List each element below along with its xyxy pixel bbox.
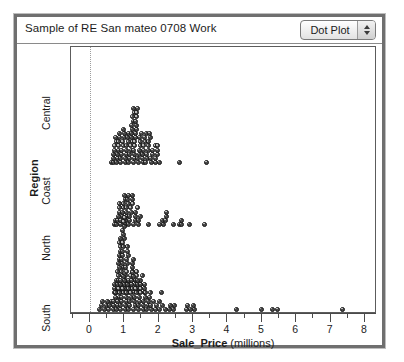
x-axis-tick-label: 6 xyxy=(292,323,298,335)
data-point[interactable] xyxy=(146,222,151,227)
x-axis-variable-name: Sale_Price xyxy=(172,337,228,349)
data-point[interactable] xyxy=(157,160,162,165)
data-point[interactable] xyxy=(131,257,136,262)
x-axis-tick-label: 5 xyxy=(258,323,264,335)
x-axis-tick-label: 8 xyxy=(361,323,367,335)
x-axis-minor-tick xyxy=(106,314,107,318)
data-point[interactable] xyxy=(340,307,345,312)
data-point[interactable] xyxy=(131,148,136,153)
x-axis-minor-tick xyxy=(175,314,176,318)
data-point[interactable] xyxy=(164,210,169,215)
x-axis-tick-label: 2 xyxy=(155,323,161,335)
plot-type-dropdown[interactable]: Dot Plot xyxy=(300,20,376,40)
data-point[interactable] xyxy=(177,160,182,165)
data-point[interactable] xyxy=(159,290,164,295)
y-category-label-north: North xyxy=(40,218,52,278)
data-point[interactable] xyxy=(133,210,138,215)
data-point[interactable] xyxy=(142,282,147,287)
plot-type-dropdown-label: Dot Plot xyxy=(301,24,357,36)
x-axis-minor-tick xyxy=(209,314,210,318)
graph-body: Region Central Coast North South 0123456… xyxy=(17,44,382,345)
data-point[interactable] xyxy=(122,224,127,229)
data-point[interactable] xyxy=(187,222,192,227)
triangle-down-icon[interactable] xyxy=(364,31,370,35)
x-axis-tick-label: 3 xyxy=(189,323,195,335)
x-axis-tick-label: 4 xyxy=(224,323,230,335)
data-point[interactable] xyxy=(130,270,135,275)
x-axis-major-tick xyxy=(158,314,159,322)
x-axis-major-tick xyxy=(261,314,262,322)
data-point[interactable] xyxy=(179,218,184,223)
x-axis-unit: (millions) xyxy=(230,337,274,349)
data-point[interactable] xyxy=(259,307,264,312)
x-axis-minor-tick xyxy=(140,314,141,318)
data-point[interactable] xyxy=(171,222,176,227)
x-axis-title: Sale_Price (millions) xyxy=(70,337,376,349)
x-axis-major-tick xyxy=(330,314,331,322)
data-point[interactable] xyxy=(155,143,160,148)
x-axis-minor-tick xyxy=(312,314,313,318)
x-axis-major-tick xyxy=(226,314,227,322)
data-point[interactable] xyxy=(234,307,239,312)
plot-panel[interactable] xyxy=(70,46,376,313)
data-point[interactable] xyxy=(125,249,130,254)
data-point[interactable] xyxy=(121,274,126,279)
data-point[interactable] xyxy=(204,160,209,165)
graph-window: Sample of RE San mateo 0708 Work Dot Plo… xyxy=(14,14,385,348)
x-axis-major-tick xyxy=(295,314,296,322)
data-point[interactable] xyxy=(138,214,143,219)
data-point[interactable] xyxy=(133,119,138,124)
x-axis-major-tick xyxy=(89,314,90,322)
data-point[interactable] xyxy=(140,273,145,278)
data-point[interactable] xyxy=(135,205,140,210)
y-axis-title: Region xyxy=(28,148,40,208)
x-axis-minor-tick xyxy=(278,314,279,318)
x-axis: 012345678 xyxy=(70,313,376,322)
data-point[interactable] xyxy=(135,106,140,111)
data-point[interactable] xyxy=(130,193,135,198)
x-axis-major-tick xyxy=(364,314,365,322)
x-axis-minor-tick xyxy=(347,314,348,318)
y-category-label-coast: Coast xyxy=(40,161,52,221)
x-axis-tick-label: 0 xyxy=(86,323,92,335)
data-point[interactable] xyxy=(155,148,160,153)
plot-type-stepper[interactable] xyxy=(357,21,375,39)
x-axis-minor-tick xyxy=(72,314,73,318)
y-category-label-central: Central xyxy=(40,83,52,143)
triangle-up-icon[interactable] xyxy=(364,25,370,29)
graph-title-bar: Sample of RE San mateo 0708 Work Dot Plo… xyxy=(17,17,382,44)
y-category-label-south: South xyxy=(40,288,52,348)
x-axis-major-tick xyxy=(123,314,124,322)
x-axis-tick-label: 1 xyxy=(120,323,126,335)
data-point[interactable] xyxy=(132,143,137,148)
x-axis-minor-tick xyxy=(244,314,245,318)
data-point[interactable] xyxy=(121,127,126,132)
data-point[interactable] xyxy=(120,249,125,254)
data-point[interactable] xyxy=(202,222,207,227)
data-point[interactable] xyxy=(275,307,280,312)
data-point[interactable] xyxy=(270,307,275,312)
data-point[interactable] xyxy=(192,307,197,312)
page-title: Sample of RE San mateo 0708 Work xyxy=(25,22,217,34)
data-point[interactable] xyxy=(148,290,153,295)
data-point[interactable] xyxy=(134,114,139,119)
data-point[interactable] xyxy=(125,244,130,249)
x-axis-major-tick xyxy=(192,314,193,322)
data-point[interactable] xyxy=(172,303,177,308)
zero-reference-gridline xyxy=(90,47,91,312)
x-axis-tick-label: 7 xyxy=(327,323,333,335)
